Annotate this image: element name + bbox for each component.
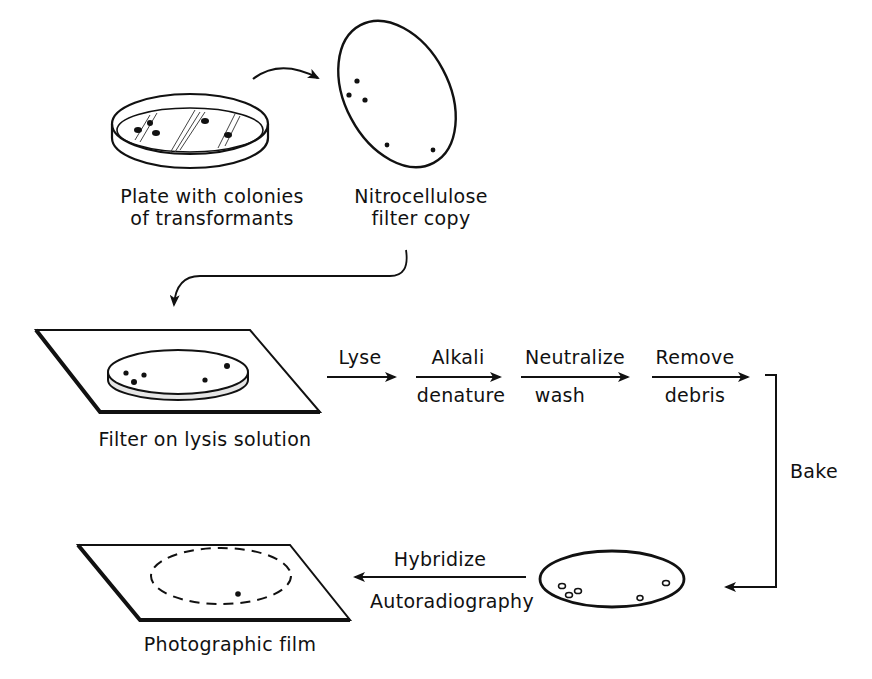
film-caption: Photographic film <box>130 633 330 655</box>
petri-dish-icon <box>112 94 268 168</box>
plate-caption-line1: Plate with colonies <box>112 185 312 207</box>
hybridize-label: Hybridize <box>370 548 510 570</box>
bake-connector <box>726 375 776 587</box>
step-debris-label: debris <box>655 384 735 406</box>
diagram-canvas <box>0 0 872 679</box>
photographic-film-icon <box>78 545 350 620</box>
transfer-arrow <box>253 68 318 79</box>
step-remove-label: Remove <box>650 346 740 368</box>
lysis-caption: Filter on lysis solution <box>90 428 320 450</box>
autoradiography-label: Autoradiography <box>362 590 542 612</box>
step-denature-label: denature <box>416 384 506 406</box>
step-lyse-label: Lyse <box>330 346 390 368</box>
filter-copy-caption-line2: filter copy <box>346 207 496 229</box>
step-alkali-label: Alkali <box>418 346 498 368</box>
bake-label: Bake <box>790 460 838 482</box>
plate-caption-line2: of transformants <box>112 207 312 229</box>
filter-copy-caption-line1: Nitrocellulose <box>346 185 496 207</box>
connector-arrow <box>174 250 407 305</box>
baked-filter-icon <box>540 551 684 607</box>
lysis-tray-icon <box>36 330 320 412</box>
step-wash-label: wash <box>525 384 595 406</box>
nitrocellulose-filter-icon <box>314 1 479 188</box>
step-neutralize-label: Neutralize <box>520 346 630 368</box>
